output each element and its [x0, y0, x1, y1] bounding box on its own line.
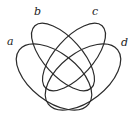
set-c-label: c: [92, 6, 98, 17]
set-d-label: d: [121, 37, 128, 48]
venn-diagram: [0, 0, 137, 118]
set-b-ellipse: [21, 13, 105, 101]
set-c-ellipse: [32, 13, 116, 101]
set-b-label: b: [34, 6, 41, 17]
set-a-label: a: [7, 36, 14, 47]
